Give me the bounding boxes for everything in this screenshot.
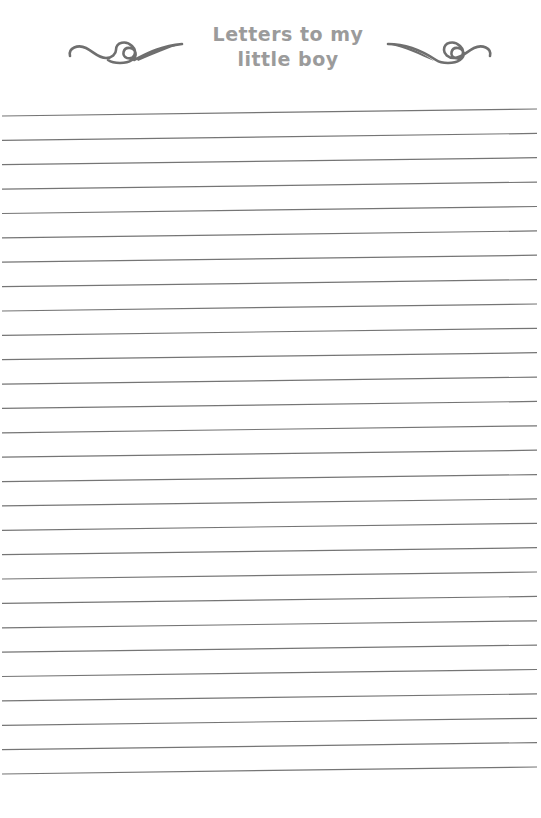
- ruled-line: [2, 694, 537, 701]
- ruled-line: [2, 523, 537, 530]
- ruled-line: [2, 426, 537, 433]
- ruled-line: [2, 377, 537, 384]
- ruled-line: [2, 621, 537, 628]
- ruled-line: [2, 280, 537, 287]
- ruled-line: [2, 304, 537, 311]
- ruled-line: [2, 182, 537, 189]
- ruled-line: [2, 450, 537, 457]
- ruled-line: [2, 718, 537, 725]
- ruled-line: [2, 572, 537, 579]
- ruled-line: [2, 133, 537, 140]
- ruled-line: [2, 670, 537, 677]
- ruled-line: [2, 743, 537, 750]
- ruled-line: [2, 596, 537, 603]
- ruled-line: [2, 255, 537, 262]
- ruled-line: [2, 475, 537, 482]
- ruled-line: [2, 158, 537, 165]
- ruled-line: [2, 401, 537, 408]
- ruled-line: [2, 499, 537, 506]
- ruled-lines: [0, 0, 541, 818]
- ruled-line: [2, 109, 537, 116]
- ruled-line: [2, 548, 537, 555]
- ruled-line: [2, 207, 537, 214]
- ruled-line: [2, 353, 537, 360]
- ruled-line: [2, 645, 537, 652]
- ruled-line: [2, 328, 537, 335]
- ruled-line: [2, 231, 537, 238]
- ruled-line: [2, 767, 537, 774]
